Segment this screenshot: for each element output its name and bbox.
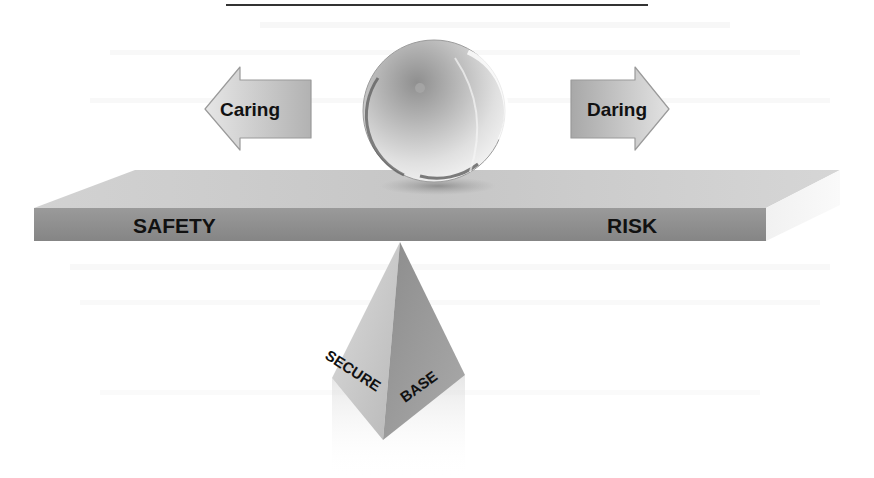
caring-label: Caring bbox=[220, 99, 280, 120]
risk-label: RISK bbox=[607, 214, 657, 237]
secure-base-pyramid: SECURE BASE bbox=[322, 242, 465, 478]
caring-arrow: Caring bbox=[205, 67, 311, 150]
daring-label: Daring bbox=[587, 99, 647, 120]
safety-risk-balance-diagram: Caring Daring SAFETY RISK SECURE BASE bbox=[0, 0, 874, 478]
glass-ball bbox=[363, 40, 506, 182]
safety-label: SAFETY bbox=[133, 214, 216, 237]
daring-arrow: Daring bbox=[571, 67, 669, 150]
